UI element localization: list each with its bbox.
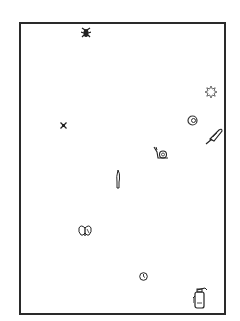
sun-icon <box>205 86 217 98</box>
knife-icon <box>115 169 121 189</box>
moon-icon <box>187 115 198 126</box>
butterfly-icon <box>78 225 92 237</box>
feather-icon <box>204 127 224 145</box>
snail-icon <box>153 146 169 160</box>
star-icon <box>60 122 67 129</box>
clock-icon <box>139 272 148 281</box>
fire-extinguisher-icon <box>193 287 209 309</box>
canvas-frame <box>19 22 226 315</box>
bug-icon <box>81 27 91 38</box>
